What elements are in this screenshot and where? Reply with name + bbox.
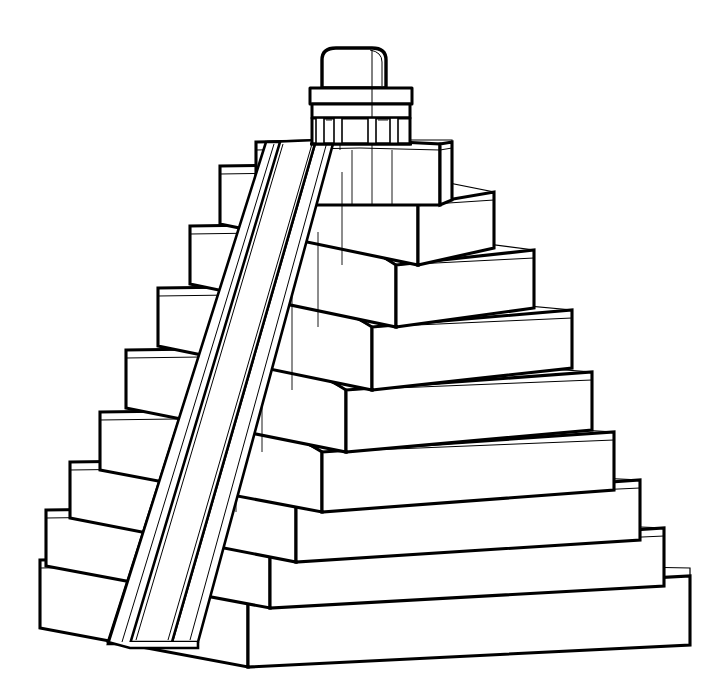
temple-lintel: [312, 104, 410, 118]
step-pyramid-illustration: Step Pyramid Line Drawing: [0, 0, 716, 684]
temple-pillar-1: [316, 118, 324, 144]
temple-pillar-2: [334, 118, 342, 144]
tier-1-right-face: [440, 142, 452, 205]
temple-cornice: [310, 88, 412, 104]
temple-pillar-3: [368, 118, 376, 144]
drawing-canvas: Step Pyramid Line Drawing: [0, 0, 716, 684]
temple-roof-comb: [322, 48, 386, 88]
temple-pillar-4: [390, 118, 398, 144]
